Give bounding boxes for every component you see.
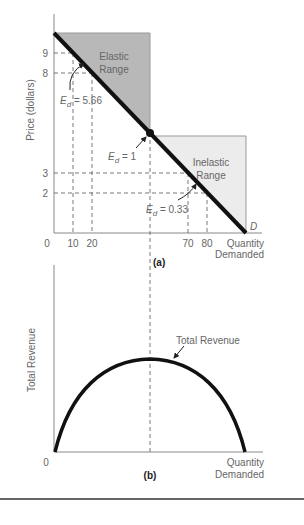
inelastic-label-1: Inelastic xyxy=(193,157,230,168)
y-tick-2: 2 xyxy=(42,188,48,199)
unit-elastic-point xyxy=(146,129,154,137)
y-label-b: Total Revenue xyxy=(26,328,37,392)
demand-label: D xyxy=(250,221,257,232)
x-tick-70: 70 xyxy=(182,238,194,249)
ed-low-label: Ed = 0.33 xyxy=(146,204,188,218)
arrow-total-revenue xyxy=(174,346,184,358)
x-tick-80: 80 xyxy=(201,238,213,249)
panel-a: Elastic Range Inelastic Range Ed = 5.66 … xyxy=(25,14,264,452)
ed-high-label: Ed = 5.66 xyxy=(60,95,102,109)
arrow-ed-unit xyxy=(136,137,146,148)
origin-b: 0 xyxy=(43,457,49,468)
inelastic-label-2: Range xyxy=(196,170,226,181)
total-revenue-curve-label: Total Revenue xyxy=(176,335,240,346)
y-tick-8: 8 xyxy=(42,68,48,79)
caption-a: (a) xyxy=(153,257,165,268)
elastic-label-1: Elastic xyxy=(99,51,128,62)
x-label-b-1: Quantity xyxy=(227,457,264,468)
y-tick-3: 3 xyxy=(42,168,48,179)
x-label-a-1: Quantity xyxy=(227,238,264,249)
arrow-ed-low xyxy=(178,184,196,200)
elastic-label-2: Range xyxy=(99,64,129,75)
ed-unit-label: Ed = 1 xyxy=(108,151,137,165)
panel-b: Total Revenue Total Revenue 0 Quantity D… xyxy=(26,265,264,481)
y-label-a: Price (dollars) xyxy=(25,79,36,141)
origin-a: 0 xyxy=(44,238,50,249)
x-label-a-2: Demanded xyxy=(215,249,264,260)
elasticity-diagram: Elastic Range Inelastic Range Ed = 5.66 … xyxy=(0,0,304,525)
y-tick-9: 9 xyxy=(42,48,48,59)
arrow-ed-high xyxy=(70,64,84,90)
x-label-b-2: Demanded xyxy=(215,469,264,480)
x-tick-20: 20 xyxy=(86,238,98,249)
x-tick-10: 10 xyxy=(67,238,79,249)
caption-b: (b) xyxy=(144,470,157,481)
